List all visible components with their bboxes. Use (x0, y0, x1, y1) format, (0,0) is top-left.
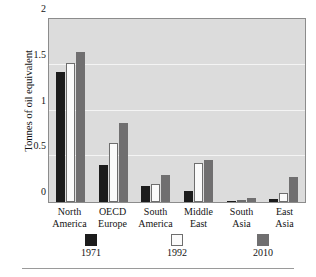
x-axis-category-label: MiddleEast (177, 206, 220, 229)
bar-group (220, 19, 263, 202)
white-square-swatch (171, 234, 183, 246)
x-axis-category-label: SouthAsia (220, 206, 263, 229)
y-axis-tick-label: 2 (41, 4, 46, 14)
legend-item-1992: 1992 (134, 234, 220, 258)
gray-square-swatch (257, 234, 269, 246)
bar-2010-north-america (76, 52, 85, 202)
bar-groups (49, 19, 305, 202)
bar-1971-north-america (56, 72, 65, 202)
y-axis-tick-label: 1 (41, 96, 46, 106)
plot-area: 00.511.52 (48, 18, 306, 203)
bar-group (92, 19, 135, 202)
legend-item-2010: 2010 (220, 234, 306, 258)
bar-1992-east-asia (279, 193, 288, 202)
bar-1971-oecd-europe (99, 165, 108, 202)
y-axis-tick-label: 1.5 (34, 50, 47, 60)
y-axis-title: Tonnes of oil equivalent (22, 6, 34, 196)
black-square-swatch (85, 234, 97, 246)
y-axis-tick-label: 0 (41, 187, 46, 197)
footer-rule (22, 268, 294, 269)
bar-group (262, 19, 305, 202)
bar-group (49, 19, 92, 202)
x-axis-category-label: NorthAmerica (48, 206, 91, 229)
bar-2010-oecd-europe (119, 123, 128, 202)
bar-group (134, 19, 177, 202)
y-axis-tick-label: 0.5 (34, 141, 47, 151)
bar-2010-south-america (161, 175, 170, 202)
x-axis-category-label: OECDEurope (91, 206, 134, 229)
chart-legend: 197119922010 (48, 234, 306, 258)
bar-1971-east-asia (269, 199, 278, 202)
x-axis-labels: NorthAmericaOECDEuropeSouthAmericaMiddle… (48, 206, 306, 229)
bar-1992-oecd-europe (109, 143, 118, 202)
bar-1971-south-asia (227, 201, 236, 202)
bar-1971-middle-east (184, 191, 193, 202)
bar-group (177, 19, 220, 202)
bar-2010-east-asia (289, 177, 298, 202)
legend-label: 2010 (253, 247, 273, 258)
bar-1992-north-america (66, 63, 75, 202)
legend-item-1971: 1971 (48, 234, 134, 258)
bar-2010-middle-east (204, 160, 213, 202)
legend-label: 1971 (81, 247, 101, 258)
bar-2010-south-asia (247, 198, 256, 202)
bar-1992-middle-east (194, 163, 203, 202)
legend-label: 1992 (167, 247, 187, 258)
bar-1992-south-america (151, 184, 160, 202)
bar-chart-figure: Tonnes of oil equivalent 00.511.52 North… (0, 0, 316, 277)
x-axis-category-label: EastAsia (263, 206, 306, 229)
x-axis-category-label: SouthAmerica (134, 206, 177, 229)
bar-1971-south-america (141, 186, 150, 202)
bar-1992-south-asia (237, 200, 246, 202)
